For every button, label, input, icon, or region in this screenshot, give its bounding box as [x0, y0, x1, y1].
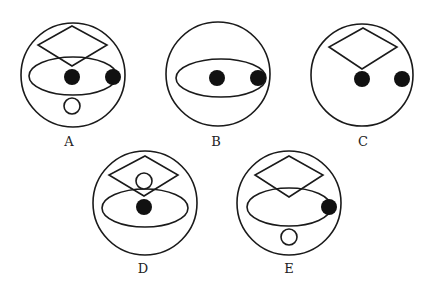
hollow-dot-shape	[64, 98, 80, 114]
solid-dot-shape	[354, 71, 370, 87]
solid-dot-shape	[64, 69, 80, 85]
option-b[interactable]: B	[166, 22, 270, 149]
solid-dot-shape	[250, 70, 266, 86]
solid-dot-shape	[394, 71, 410, 87]
option-a[interactable]: A	[21, 23, 125, 149]
ellipse-shape	[247, 188, 331, 226]
option-label: A	[63, 134, 74, 149]
option-e[interactable]: E	[237, 151, 341, 276]
solid-dot-shape	[105, 69, 121, 85]
hollow-dot-shape	[136, 173, 152, 189]
answer-options-figure: ABCDE	[0, 0, 432, 291]
diamond-shape	[329, 28, 397, 69]
hollow-dot-shape	[281, 229, 297, 245]
option-d[interactable]: D	[93, 151, 197, 276]
option-label: E	[284, 261, 294, 276]
option-label: B	[211, 134, 221, 149]
solid-dot-shape	[209, 70, 225, 86]
option-label: C	[358, 134, 368, 149]
option-label: D	[138, 261, 148, 276]
solid-dot-shape	[136, 199, 152, 215]
option-c[interactable]: C	[311, 24, 413, 149]
solid-dot-shape	[321, 199, 337, 215]
